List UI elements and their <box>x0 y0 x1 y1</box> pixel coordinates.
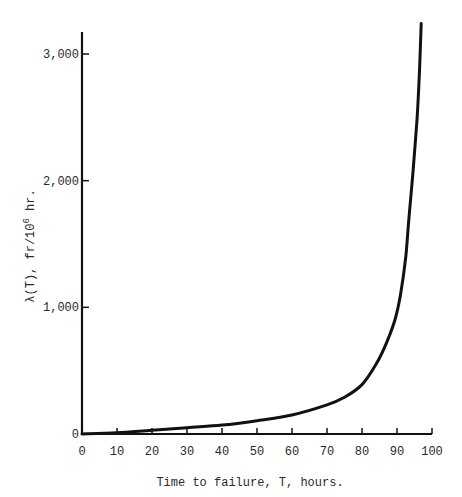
chart: 01,0002,0003,000 0102030405060708090100 … <box>0 0 462 497</box>
x-tick-label: 60 <box>285 445 299 459</box>
x-tick-label: 10 <box>110 445 124 459</box>
y-tick-label: 1,000 <box>43 301 79 315</box>
x-tick-label: 80 <box>355 445 369 459</box>
y-tick-label: 3,000 <box>43 48 79 62</box>
y-axis-title-tail: hr. <box>24 189 38 218</box>
x-tick-label: 30 <box>180 445 194 459</box>
failure-rate-curve <box>82 24 421 434</box>
x-tick-label: 100 <box>421 445 443 459</box>
x-tick-label: 70 <box>320 445 334 459</box>
x-axis-title: Time to failure, T, hours. <box>156 476 343 490</box>
y-tick-label: 2,000 <box>43 175 79 189</box>
y-axis-title-main: λ(T), fr/10 <box>24 224 38 303</box>
x-tick-label: 20 <box>145 445 159 459</box>
y-axis-title: λ(T), fr/106 hr. <box>22 189 38 302</box>
y-axis: 01,0002,0003,000 <box>43 32 89 442</box>
x-tick-label: 40 <box>215 445 229 459</box>
x-tick-label: 0 <box>78 445 85 459</box>
x-tick-label: 50 <box>250 445 264 459</box>
x-tick-label: 90 <box>390 445 404 459</box>
y-tick-label: 0 <box>72 428 79 442</box>
